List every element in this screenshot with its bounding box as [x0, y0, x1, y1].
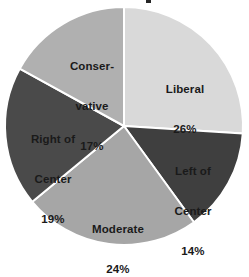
- slice-label-moderate-value: 24%: [78, 263, 158, 276]
- pie-slice-liberal: [124, 7, 243, 133]
- cropped-title-artifact: [146, 0, 151, 3]
- pie-slice-group: [5, 7, 243, 245]
